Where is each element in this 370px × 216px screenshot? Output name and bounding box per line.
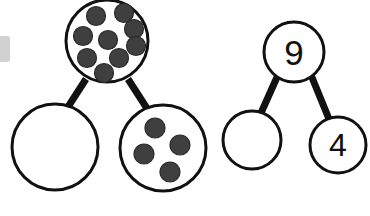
part-counters-right-counter-2: [170, 135, 190, 155]
pictorial-number-bond: [12, 0, 206, 191]
part-empty-blank-outline[interactable]: [223, 111, 281, 169]
part-counters-right-counter-4: [160, 162, 180, 182]
whole-nine-numeral: 9: [284, 33, 303, 72]
whole-counters[interactable]: [66, 0, 148, 83]
part-counters-right-counter-1: [145, 118, 165, 138]
part-counters-right[interactable]: [120, 105, 206, 191]
part-counters-right-counter-3: [134, 144, 154, 164]
whole-counters-counter-4: [74, 27, 93, 46]
left-edge-smudge: [0, 36, 10, 62]
whole-counters-counter-9: [95, 64, 114, 83]
numeric-number-bond: 94: [223, 22, 366, 173]
whole-counters-counter-6: [127, 37, 146, 56]
whole-nine[interactable]: 9: [264, 22, 324, 82]
worksheet-canvas: 94: [0, 0, 370, 216]
part-empty-left-outline[interactable]: [12, 104, 98, 190]
part-four[interactable]: 4: [310, 117, 366, 173]
part-empty-blank[interactable]: [223, 111, 281, 169]
whole-counters-counter-5: [99, 31, 118, 50]
connector-nine-to-blank: [261, 75, 278, 113]
connector-nine-to-four: [311, 75, 329, 119]
part-empty-left[interactable]: [12, 104, 98, 190]
whole-counters-counter-3: [125, 20, 144, 39]
number-bond-diagram-svg: 94: [0, 0, 370, 216]
whole-counters-counter-8: [110, 49, 129, 68]
whole-counters-counter-7: [78, 49, 97, 68]
connector-whole-to-right: [128, 79, 148, 110]
part-four-numeral: 4: [329, 127, 347, 163]
whole-counters-counter-1: [87, 7, 106, 26]
